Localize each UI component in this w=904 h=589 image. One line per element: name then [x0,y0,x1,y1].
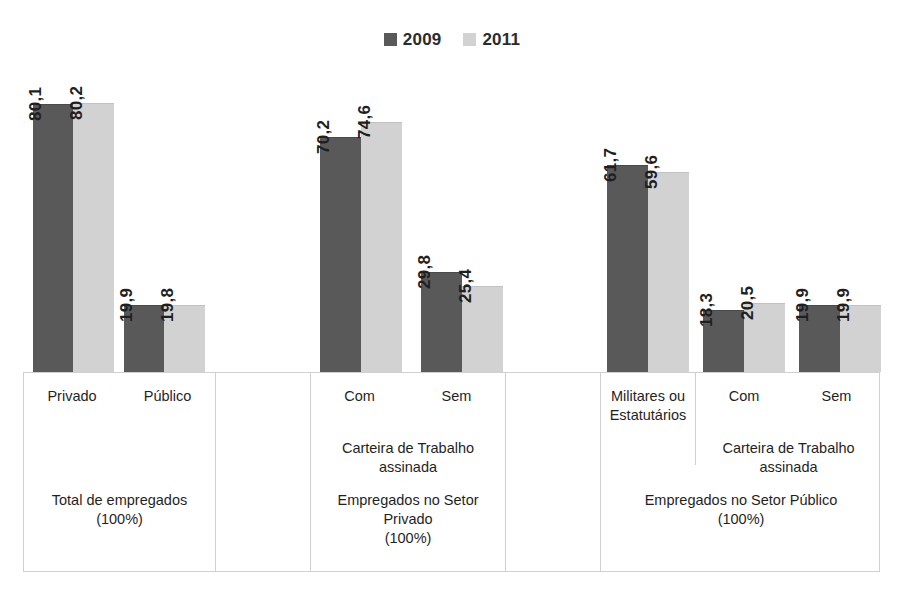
subgroup-title-line2: assinada [311,458,505,477]
category-label-com-publico: Com [696,387,792,406]
bar-label-2011-com-privado: 74,6 [355,105,375,139]
category-label-com-privado: Com [311,387,408,406]
bar-label-2011-militares: 59,6 [642,155,662,189]
category-label-militares-estatutarios: Militares ou Estatutários [601,387,695,425]
category-label-sem-publico: Sem [792,387,881,406]
group-title-line2: Privado [311,510,505,529]
category-label-privado: Privado [24,387,120,406]
group-title-line3: (100%) [311,529,505,548]
group-title-setor-privado: Empregados no Setor Privado (100%) [311,491,505,548]
subgroup-title-carteira-privado: Carteira de Trabalho assinada [311,439,505,477]
bar-label-2011-com-publico: 20,5 [738,286,758,320]
bar-label-2009-militares: 61,7 [601,148,621,182]
bar-label-2009-sem-privado: 29,8 [415,255,435,289]
bar-label-2011-sem-privado: 25,4 [456,269,476,303]
bar-label-2009-publico: 19,9 [117,288,137,322]
subgroup-title-carteira-publico: Carteira de Trabalho assinada [696,439,881,477]
category-label-line2: Estatutários [601,406,695,425]
category-label-publico: Público [120,387,215,406]
category-axis-table: Privado Público Total de empregados (100… [23,372,880,572]
bar-label-2009-com-publico: 18,3 [697,293,717,327]
bar-2011-privado[interactable] [73,103,114,372]
group-title-line1: Total de empregados [24,491,215,510]
category-label-sem-privado: Sem [408,387,505,406]
group-title-total-empregados: Total de empregados (100%) [24,491,215,529]
bar-label-2011-sem-publico: 19,9 [834,288,854,322]
bar-2009-militares[interactable] [607,165,648,372]
bar-label-2011-publico: 19,8 [158,288,178,322]
subgroup-title-line1: Carteira de Trabalho [311,439,505,458]
bar-2009-com-privado[interactable] [320,137,361,372]
group-title-line2: (100%) [601,510,881,529]
plot-area: 80,1 80,2 19,9 19,8 70,2 74,6 29,8 25,4 … [0,0,904,372]
group-title-setor-publico: Empregados no Setor Público (100%) [601,491,881,529]
subgroup-title-line2: assinada [696,458,881,477]
group-title-line1: Empregados no Setor Público [601,491,881,510]
bar-2011-com-privado[interactable] [361,122,402,372]
category-label-line1: Militares ou [601,387,695,406]
bar-label-2009-privado: 80,1 [26,87,46,121]
bar-label-2009-sem-publico: 19,9 [793,288,813,322]
group-title-line2: (100%) [24,510,215,529]
bar-2009-privado[interactable] [33,104,73,372]
bar-chart: 2009 2011 80,1 80,2 19,9 19,8 70,2 74,6 … [0,0,904,589]
divider-group1-group2 [215,373,216,572]
bar-label-2011-privado: 80,2 [67,86,87,120]
subgroup-title-line1: Carteira de Trabalho [696,439,881,458]
divider-group2-right [505,373,506,572]
bar-label-2009-com-privado: 70,2 [314,120,334,154]
group-title-line1: Empregados no Setor [311,491,505,510]
bar-2011-militares[interactable] [648,172,689,372]
